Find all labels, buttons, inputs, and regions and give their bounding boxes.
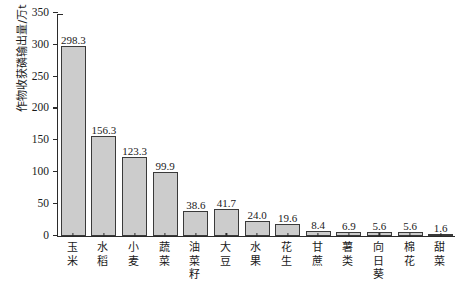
bar-slot: 1.6 xyxy=(428,13,453,236)
bar[interactable]: 156.3 xyxy=(91,136,116,236)
x-axis-category-label: 向日葵 xyxy=(363,241,394,282)
bar-value-label: 8.4 xyxy=(311,219,325,231)
x-axis-category-char: 豆 xyxy=(210,255,241,269)
y-axis-tick: 350 xyxy=(53,12,58,13)
x-axis-category-label: 油菜籽 xyxy=(179,241,210,282)
bar-value-label: 99.9 xyxy=(156,160,175,172)
y-axis-tick-label: 0 xyxy=(15,227,49,243)
bar-value-label: 298.3 xyxy=(61,34,86,46)
y-axis-tick-label: 50 xyxy=(15,195,49,211)
x-axis-category-label: 玉米 xyxy=(57,241,88,268)
x-axis-category-label: 水果 xyxy=(241,241,272,268)
bar-value-label: 19.6 xyxy=(278,212,297,224)
x-axis-category-label: 小麦 xyxy=(118,241,149,268)
x-axis-labels: 玉米水稻小麦蔬菜油菜籽大豆水果花生甘蔗薯类向日葵棉花甜菜 xyxy=(57,241,455,296)
bar-value-label: 24.0 xyxy=(247,209,266,221)
x-axis-category-char: 花 xyxy=(394,255,425,269)
x-axis-tick xyxy=(440,233,441,237)
bar[interactable]: 99.9 xyxy=(153,172,178,236)
bar[interactable]: 123.3 xyxy=(122,157,147,236)
x-axis-category-char: 花 xyxy=(271,241,302,255)
x-axis-category-label: 大豆 xyxy=(210,241,241,268)
x-axis-tick xyxy=(287,233,288,237)
x-axis-category-label: 水稻 xyxy=(88,241,119,268)
x-axis-category-char: 油 xyxy=(179,241,210,255)
x-axis-tick xyxy=(409,233,410,237)
bar-slot: 5.6 xyxy=(367,13,392,236)
x-axis-category-char: 向 xyxy=(363,241,394,255)
bar-value-label: 6.9 xyxy=(342,220,356,232)
x-axis-category-char: 水 xyxy=(241,241,272,255)
x-axis-category-char: 葵 xyxy=(363,268,394,282)
x-axis-category-label: 甜菜 xyxy=(424,241,455,268)
bar-slot: 123.3 xyxy=(122,13,147,236)
y-axis-tick-label: 350 xyxy=(15,4,49,20)
plot-area: 050100150200250300350 298.3156.3123.399.… xyxy=(57,14,455,237)
bar-slot: 6.9 xyxy=(336,13,361,236)
x-axis-category-char: 果 xyxy=(241,255,272,269)
x-axis-category-char: 日 xyxy=(363,255,394,269)
y-axis-tick-label: 100 xyxy=(15,163,49,179)
x-axis-category-label: 蔬菜 xyxy=(149,241,180,268)
x-axis-category-label: 薯类 xyxy=(333,241,364,268)
bar-value-label: 5.6 xyxy=(373,220,387,232)
bar-chart: 作物收获磷输出量/万t 050100150200250300350 298.31… xyxy=(0,0,463,296)
x-axis-tick xyxy=(165,233,166,237)
x-axis-category-char: 菜 xyxy=(424,255,455,269)
x-axis-category-char: 菜 xyxy=(179,255,210,269)
x-axis-category-char: 水 xyxy=(88,241,119,255)
bar-slot: 38.6 xyxy=(183,13,208,236)
bar-slot: 99.9 xyxy=(153,13,178,236)
x-axis-category-char: 小 xyxy=(118,241,149,255)
x-axis-category-char: 蔗 xyxy=(302,255,333,269)
x-axis-tick xyxy=(195,233,196,237)
x-axis-tick xyxy=(256,233,257,237)
bar-slot: 24.0 xyxy=(245,13,270,236)
x-axis-tick xyxy=(318,233,319,237)
y-axis-tick-label: 300 xyxy=(15,36,49,52)
bar-value-label: 41.7 xyxy=(217,197,236,209)
x-axis-category-char: 蔬 xyxy=(149,241,180,255)
x-axis-category-char: 米 xyxy=(57,255,88,269)
x-axis-category-label: 花生 xyxy=(271,241,302,268)
bar-value-label: 5.6 xyxy=(403,220,417,232)
x-axis-category-char: 大 xyxy=(210,241,241,255)
x-axis-category-char: 甜 xyxy=(424,241,455,255)
bar-value-label: 156.3 xyxy=(92,124,117,136)
bar[interactable]: 298.3 xyxy=(61,46,86,236)
x-axis-category-char: 甘 xyxy=(302,241,333,255)
x-axis-tick xyxy=(348,233,349,237)
x-axis-category-char: 类 xyxy=(333,255,364,269)
bar-slot: 19.6 xyxy=(275,13,300,236)
x-axis-category-char: 薯 xyxy=(333,241,364,255)
bar-slot: 156.3 xyxy=(91,13,116,236)
x-axis-category-char: 生 xyxy=(271,255,302,269)
bar-value-label: 38.6 xyxy=(186,199,205,211)
y-axis-tick-label: 250 xyxy=(15,68,49,84)
x-axis-tick xyxy=(103,233,104,237)
x-axis-category-label: 棉花 xyxy=(394,241,425,268)
x-axis-category-char: 棉 xyxy=(394,241,425,255)
x-axis-tick xyxy=(134,233,135,237)
x-axis-category-char: 菜 xyxy=(149,255,180,269)
x-axis-tick xyxy=(73,233,74,237)
x-axis-category-char: 籽 xyxy=(179,268,210,282)
x-axis-tick xyxy=(379,233,380,237)
bar-value-label: 123.3 xyxy=(122,145,147,157)
bar-slot: 298.3 xyxy=(61,13,86,236)
x-axis-category-char: 麦 xyxy=(118,255,149,269)
x-axis-category-char: 稻 xyxy=(88,255,119,269)
bar-slot: 41.7 xyxy=(214,13,239,236)
x-axis-category-char: 玉 xyxy=(57,241,88,255)
bar-series: 298.3156.3123.399.938.641.724.019.68.46.… xyxy=(58,14,455,236)
y-axis-tick-label: 150 xyxy=(15,131,49,147)
bar-slot: 8.4 xyxy=(306,13,331,236)
y-axis-tick-label: 200 xyxy=(15,99,49,115)
x-axis-category-label: 甘蔗 xyxy=(302,241,333,268)
bar-slot: 5.6 xyxy=(398,13,423,236)
x-axis-tick xyxy=(226,233,227,237)
